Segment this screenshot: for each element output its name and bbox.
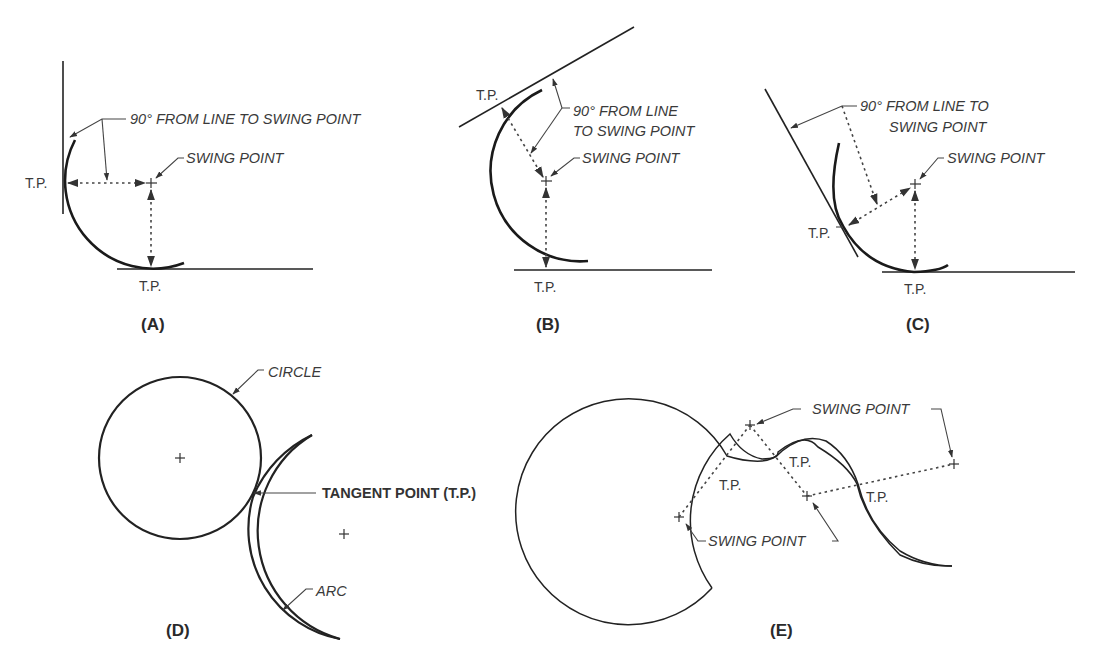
leader-to-radius [842,106,877,204]
compound-curve [516,399,952,625]
caption-d: (D) [166,621,190,640]
swing-point-cross [910,179,921,189]
tangent-arc [258,435,340,639]
swing-point-leader [551,158,580,176]
tp-label-left: T.P. [808,225,830,241]
tangency-diagram: 90° FROM LINE TO SWING POINT SWING POINT… [0,0,1095,659]
circle-center-cross [175,453,185,463]
leader-to-radius [102,119,107,180]
panel-b: 90° FROM LINE TO SWING POINT SWING POINT… [459,27,712,334]
angle-note-line1: 90° FROM LINE TO [860,98,989,114]
panel-a: 90° FROM LINE TO SWING POINT SWING POINT… [25,61,361,334]
arc [248,435,340,639]
swing-point-top-leader [757,409,801,424]
swing-point-leader [920,158,944,179]
swing-point-label: SWING POINT [947,150,1046,166]
swing-point-cross [541,176,552,186]
angle-note: 90° FROM LINE TO SWING POINT [130,111,361,127]
arc-center-cross [339,529,349,539]
panel-c: 90° FROM LINE TO SWING POINT SWING POINT… [765,89,1075,334]
arc-label: ARC [315,583,347,599]
caption-c: (C) [906,315,930,334]
tangent-arc [65,140,184,269]
angle-note-line1: 90° FROM LINE [573,103,678,119]
tp-label-1: T.P. [719,477,741,493]
swing-point-label: SWING POINT [186,150,285,166]
panel-d: CIRCLE TANGENT POINT (T.P.) ARC (D) [99,364,476,640]
swing-point-top-leader-2 [931,409,952,457]
swing-point-leader [156,158,184,178]
leader-to-line [791,106,857,128]
angle-note-line2: TO SWING POINT [573,123,696,139]
tp-label-2: T.P. [789,454,811,470]
tp-label-bottom: T.P. [904,281,926,297]
swing-point-label: SWING POINT [582,150,681,166]
swing-point-bottom-leader [686,524,706,541]
tp-label-left: T.P. [25,175,47,191]
tp-label-top: T.P. [476,87,498,103]
caption-b: (B) [536,315,560,334]
circle-leader [233,370,264,394]
angle-note-line2: SWING POINT [889,119,988,135]
leader-to-radius [531,108,562,153]
caption-a: (A) [141,315,165,334]
tp-label-3: T.P. [866,489,888,505]
leader-to-line [553,79,570,108]
radius-line-inclined [502,108,543,177]
tp-label-bottom: T.P. [534,279,556,295]
swing-point-cross [146,178,157,188]
circle-label: CIRCLE [268,364,322,380]
panel-e: SWING POINT SWING POINT T.P. T.P. T.P. (… [516,399,959,640]
swing-point-top-label: SWING POINT [812,401,911,417]
swing-point-bottom-label: SWING POINT [708,533,807,549]
swing-point-bottom-leader-2 [813,503,838,541]
tangent-arc [833,143,948,272]
radius-line-inclined [849,188,910,225]
tp-label-bottom: T.P. [139,278,161,294]
caption-e: (E) [770,621,793,640]
tangent-point-label: TANGENT POINT (T.P.) [322,485,476,501]
leader-to-line [70,119,126,137]
